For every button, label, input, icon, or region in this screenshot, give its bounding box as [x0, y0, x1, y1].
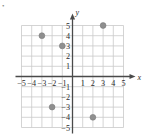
- corner-mark: •: [2, 2, 5, 10]
- x-tick-label: 2: [91, 79, 95, 88]
- coordinate-plane-figure: −5−4−3−2−112345 54321−1−2−3−4−5 x y (−3,…: [0, 0, 155, 139]
- x-tick-label: −3: [38, 79, 47, 88]
- data-point: (−2, −3): [49, 104, 55, 110]
- x-tick-label: 5: [121, 79, 125, 88]
- data-point: (−1, 3): [59, 43, 65, 49]
- x-tick-label: 3: [101, 79, 105, 88]
- x-tick-label: −4: [27, 79, 36, 88]
- data-point: (2, −4): [90, 114, 96, 120]
- x-axis-label: x: [137, 73, 142, 82]
- y-tick-label: −4: [61, 113, 70, 122]
- y-tick-label: −1: [61, 83, 70, 92]
- axis-lines: [16, 14, 136, 134]
- y-tick-label: 4: [66, 32, 70, 41]
- x-tick-label: −5: [17, 79, 26, 88]
- y-tick-label: −3: [61, 103, 70, 112]
- x-tick-label: 4: [111, 79, 115, 88]
- data-point: (3, 5): [100, 23, 106, 29]
- x-tick-label: 1: [81, 79, 85, 88]
- x-axis-arrowhead: [130, 74, 136, 79]
- y-axis-label: y: [75, 8, 80, 17]
- y-tick-label: −2: [61, 93, 70, 102]
- y-tick-label: 3: [66, 42, 70, 51]
- y-tick-label: 1: [66, 62, 70, 71]
- x-tick-label: −2: [48, 79, 57, 88]
- y-tick-label: −5: [61, 124, 70, 133]
- y-axis-arrowhead: [70, 14, 75, 20]
- data-point: (−3, 4): [39, 33, 45, 39]
- y-tick-label: 5: [66, 22, 70, 31]
- y-tick-label: 2: [66, 52, 70, 61]
- coordinate-plane-svg: −5−4−3−2−112345 54321−1−2−3−4−5 x y (−3,…: [0, 0, 155, 139]
